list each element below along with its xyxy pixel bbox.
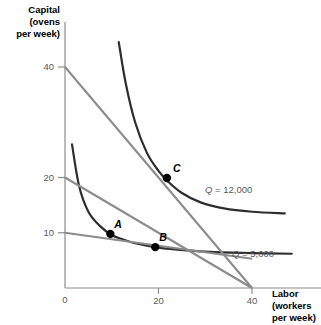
data-point-A — [106, 230, 114, 238]
x-tick-label: 0 — [50, 294, 80, 305]
y-axis-ticks — [58, 67, 65, 233]
point-label-A: A — [114, 218, 122, 230]
isoquant-isocost-chart: Capital (ovens per week) Labor (workers … — [0, 0, 321, 325]
x-axis-ticks — [159, 288, 253, 294]
point-label-C: C — [173, 162, 181, 174]
y-tick-label: 40 — [20, 61, 54, 72]
data-point-C — [163, 174, 171, 182]
x-tick-label: 20 — [144, 295, 174, 306]
x-tick-label: 40 — [237, 295, 267, 306]
axis-lines — [65, 22, 321, 288]
isoquant-label: Q = 12,000 — [205, 184, 252, 195]
isoquant-label: Q = 5,000 — [232, 248, 274, 259]
y-tick-label: 20 — [20, 172, 54, 183]
isoquant-curve — [119, 42, 285, 213]
data-point-B — [151, 243, 159, 251]
y-tick-label: 10 — [20, 227, 54, 238]
plot-area — [0, 0, 321, 325]
point-label-B: B — [159, 231, 167, 243]
